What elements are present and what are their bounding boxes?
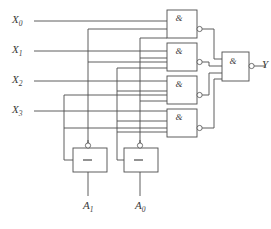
select-label-a1: A1	[83, 200, 93, 214]
interconnect-wires	[202, 29, 222, 128]
and-gate-1-bubble-icon	[197, 26, 202, 31]
wire-g4-to-out	[202, 79, 222, 128]
input-wires	[34, 21, 167, 111]
and-gate-1: &	[167, 10, 202, 38]
wire-g1-to-out	[202, 29, 222, 59]
gate-input-stubs	[117, 58, 167, 121]
inverter-a1-bubble-icon	[85, 143, 90, 148]
input-label-x0: X0	[12, 14, 22, 28]
input-label-x1: X1	[12, 44, 22, 58]
and-gate-4-symbol: &	[175, 112, 182, 122]
and-gate-2-bubble-icon	[197, 59, 202, 64]
and-gate-1-symbol: &	[175, 13, 182, 23]
inverter-a0-bubble-icon	[137, 143, 142, 148]
and-gate-4-bubble-icon	[197, 125, 202, 130]
wire-a0-bar-bus	[117, 68, 124, 160]
and-gate-3-symbol: &	[175, 79, 182, 89]
and-gate-2-symbol: &	[175, 46, 182, 56]
wire-g3-to-out	[202, 73, 222, 95]
input-label-x3: X3	[12, 104, 22, 118]
and-gate-3: &	[167, 76, 202, 104]
schematic-canvas: & & & & &	[0, 0, 271, 229]
input-label-x2: X2	[12, 74, 22, 88]
wire-a1-bar-bus	[64, 95, 73, 160]
and-gate-4: &	[167, 109, 202, 137]
input-label-x2-subscript: 2	[19, 79, 23, 88]
select-label-a1-subscript: 1	[90, 205, 94, 214]
input-label-x1-subscript: 1	[19, 49, 23, 58]
circuit-schematic: & & & & &	[0, 0, 271, 229]
input-label-x0-subscript: 0	[19, 19, 23, 28]
select-bus-wires	[64, 29, 167, 160]
select-label-a0: A0	[135, 200, 145, 214]
output-gate-symbol: &	[229, 56, 236, 66]
inverter-a1	[73, 143, 107, 172]
output-gate: &	[222, 52, 266, 81]
select-label-a0-subscript: 0	[142, 205, 146, 214]
and-gate-2: &	[167, 43, 202, 71]
input-label-x3-subscript: 3	[19, 109, 23, 118]
wire-g2-to-out	[202, 62, 222, 66]
and-gate-3-bubble-icon	[197, 92, 202, 97]
output-gate-bubble-icon	[249, 63, 254, 68]
output-label-y: Y	[262, 59, 268, 70]
inverter-a0	[124, 143, 158, 172]
